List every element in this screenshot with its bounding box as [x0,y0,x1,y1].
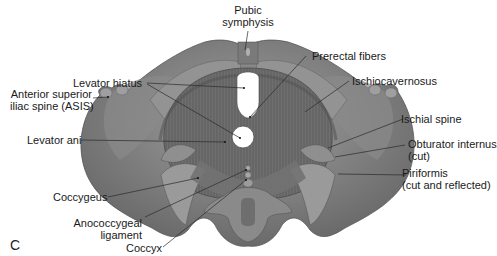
label-pubic-symphysis: Pubic symphysis [222,4,274,28]
label-ischial-spine: Ischial spine [401,113,462,125]
rectal-opening [232,126,254,148]
label-ischiocavernosus: Ischiocavernosus [352,75,437,87]
pelvic-floor-diagram: Pubic symphysis Prerectal fibers Levator… [0,0,497,256]
label-levator-ani: Levator ani [27,134,81,146]
label-obturator-internus: Obturator internus (cut) [408,138,497,162]
label-coccyx: Coccyx [126,242,162,254]
label-coccygeus: Coccygeus [53,191,107,203]
label-asis: Anterior superior iliac spine (ASIS) [10,88,92,112]
label-anococcygeal-ligament: Anococcygeal ligament [64,217,142,241]
label-piriformis: Piriformis (cut and reflected) [402,167,491,191]
label-prerectal-fibers: Prerectal fibers [312,50,386,62]
panel-letter: C [10,237,20,253]
